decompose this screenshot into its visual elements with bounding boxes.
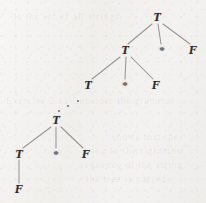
tree-edge — [128, 24, 152, 44]
tree-node-leaf-F: F — [15, 183, 23, 196]
ellipsis-dot — [77, 100, 79, 102]
tree-node-T: T — [52, 114, 60, 127]
tree-edge — [23, 127, 51, 148]
tree-node-T: T — [121, 44, 129, 57]
tree-edge — [61, 127, 83, 148]
tree-edge — [92, 57, 120, 79]
parse-tree-figure: is the set of all strings Exercise 2.11 … — [0, 0, 206, 203]
tree-node-T: T — [84, 79, 92, 92]
tree-edge — [163, 24, 190, 44]
tree-node-F: F — [189, 44, 197, 57]
tree-edge — [125, 57, 126, 79]
tree-edge — [158, 24, 161, 44]
ellipsis-dot — [67, 105, 69, 107]
tree-node-T: T — [15, 148, 23, 161]
tree-node-star: * — [122, 80, 128, 91]
tree-edge-layer — [0, 0, 206, 203]
tree-node-root-T: T — [153, 11, 161, 24]
tree-node-star: * — [159, 45, 165, 56]
tree-edge — [131, 57, 153, 79]
tree-node-F: F — [152, 79, 160, 92]
ellipsis-dot — [58, 110, 60, 112]
tree-node-star: * — [53, 149, 59, 160]
tree-node-F: F — [82, 148, 90, 161]
